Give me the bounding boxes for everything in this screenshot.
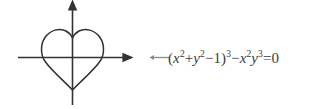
equation-term1-var: x: [173, 50, 180, 66]
equation-minus-operator-2: −: [231, 50, 240, 66]
left-arrow-icon: [148, 49, 170, 67]
implicit-equation: (x2+y2−1)3−x2y3=0: [168, 50, 279, 67]
figure-container: (x2+y2−1)3−x2y3=0: [0, 0, 336, 109]
equation-term4-var: y: [251, 50, 258, 66]
equation-zero: 0: [271, 50, 279, 66]
equation-plus-operator: +: [185, 50, 194, 66]
equation-container: (x2+y2−1)3−x2y3=0: [168, 46, 336, 70]
equation-constant-one: 1: [213, 50, 221, 66]
